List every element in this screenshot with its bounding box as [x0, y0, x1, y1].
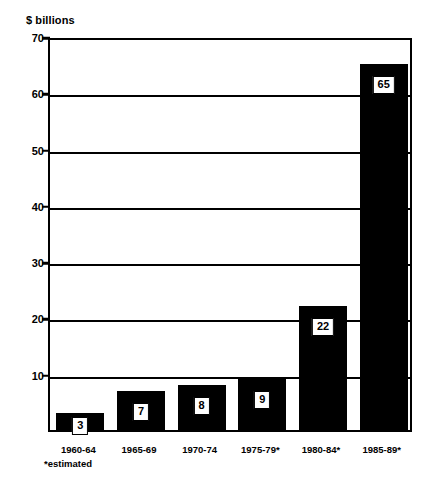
y-tick-label-10: 10 [4, 370, 44, 382]
bar-value-label: 22 [312, 318, 334, 336]
y-tick-label-70: 70 [4, 32, 44, 44]
footnote-estimated: *estimated [44, 458, 92, 469]
x-tick-label-1965-69: 1965-69 [122, 444, 157, 455]
x-tick-label-1960-64: 1960-64 [61, 444, 96, 455]
y-tick-label-40: 40 [4, 201, 44, 213]
bar-1980-84*: 22 [299, 306, 347, 430]
gridline-40 [50, 208, 410, 210]
bar-1965-69: 7 [117, 391, 165, 430]
bar-chart-figure: $ billions 37892265 10203040506070 1960-… [0, 0, 429, 494]
y-tick-label-50: 50 [4, 145, 44, 157]
y-tick-label-20: 20 [4, 313, 44, 325]
bar-value-label: 65 [373, 76, 395, 94]
bar-1960-64: 3 [56, 413, 104, 430]
gridline-20 [50, 320, 410, 322]
gridline-10 [50, 377, 410, 379]
bar-value-label: 7 [133, 403, 149, 421]
x-tick-label-1985-89*: 1985-89* [362, 444, 401, 455]
y-tick-label-60: 60 [4, 88, 44, 100]
bar-value-label: 3 [72, 417, 88, 435]
plot-area: 37892265 [48, 38, 412, 432]
bar-value-label: 9 [254, 391, 270, 409]
bar-value-label: 8 [194, 397, 210, 415]
x-tick-label-1970-74: 1970-74 [182, 444, 217, 455]
bar-1975-79*: 9 [238, 379, 286, 430]
gridline-50 [50, 152, 410, 154]
gridline-60 [50, 95, 410, 97]
y-tick-label-30: 30 [4, 257, 44, 269]
bar-1970-74: 8 [178, 385, 226, 430]
x-tick-label-1980-84*: 1980-84* [302, 444, 341, 455]
x-tick-label-1975-79*: 1975-79* [241, 444, 280, 455]
y-axis-unit-title: $ billions [26, 14, 75, 26]
bar-1985-89*: 65 [360, 64, 408, 430]
gridline-30 [50, 264, 410, 266]
